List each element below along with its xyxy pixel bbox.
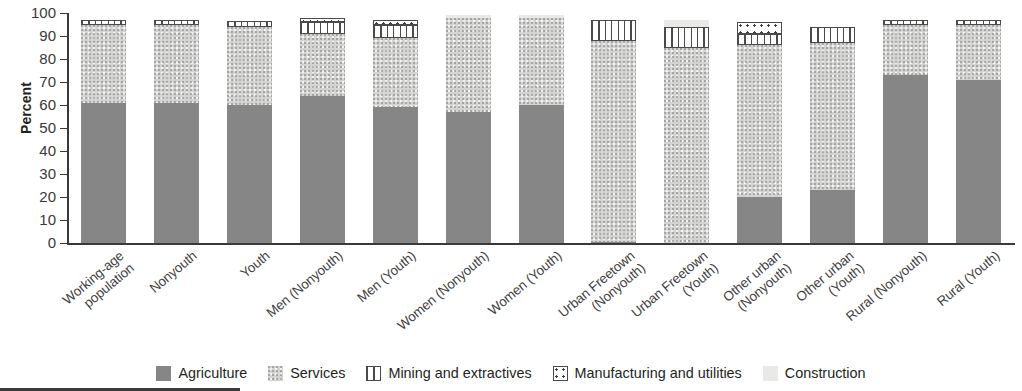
legend-item: Services [268,365,345,381]
bar-segment-mining [956,20,1001,25]
bar-segment-mining [737,34,782,46]
bar-group [300,13,345,243]
y-axis-tick-label: 30 [22,167,56,181]
bar-segment-agriculture [81,103,126,243]
bar-segment-services [883,25,928,76]
y-axis-tick-mark [60,82,67,83]
stacked-bar-chart: Percent 0102030405060708090100 Working-a… [0,0,1022,391]
x-axis-tick-labels: Working-age populationNonyouthYouthMen (… [0,248,1022,358]
y-axis-tick-mark [60,174,67,175]
y-axis-tick-mark [60,128,67,129]
y-axis-tick-mark [60,243,67,244]
legend-item: Mining and extractives [366,365,531,381]
bar-group [883,13,928,243]
y-axis-tick-label: 10 [22,213,56,227]
bar-segment-services [664,48,709,244]
bar-segment-mining [81,20,126,25]
bar-segment-services [300,34,345,96]
bar-segment-services [154,25,199,103]
bar-segment-services [373,38,418,107]
y-axis-tick-mark [60,105,67,106]
bar-group [81,13,126,243]
y-axis-tick-label: 70 [22,75,56,89]
bar-group [373,13,418,243]
bar-group [591,13,636,243]
bar-segment-manufacturing [300,18,345,23]
y-axis-tick-mark [60,197,67,198]
bar-group [446,13,491,243]
y-axis-tick-mark [60,13,67,14]
bar-group [154,13,199,243]
bar-segment-manufacturing [737,22,782,34]
legend-label: Manufacturing and utilities [575,365,742,381]
bar-segment-mining [373,25,418,39]
legend-swatch-mining [366,366,381,381]
y-axis-tick-label: 90 [22,29,56,43]
bar-segment-services [519,18,564,105]
bar-segment-mining [810,27,855,43]
bar-group [737,13,782,243]
bar-segment-services [956,25,1001,80]
bar-segment-manufacturing [373,20,418,25]
legend-label: Mining and extractives [388,365,531,381]
y-axis-tick-mark [60,151,67,152]
chart-legend: AgricultureServicesMining and extractive… [0,361,1022,385]
bar-segment-agriculture [373,107,418,243]
bar-segment-mining [227,21,272,27]
y-axis-tick-mark [60,36,67,37]
bar-segment-agriculture [737,197,782,243]
bar-segment-services [227,27,272,105]
bar-segment-agriculture [300,96,345,243]
y-axis-tick-label: 20 [22,190,56,204]
plot-area [67,13,1015,243]
bar-segment-services [737,45,782,197]
legend-swatch-services [268,366,283,381]
bar-segment-agriculture [154,103,199,243]
legend-swatch-manufacturing [553,366,568,381]
bar-segment-mining [883,20,928,25]
bar-group [227,13,272,243]
y-axis-tick-label: 60 [22,98,56,112]
bar-segment-construction [664,20,709,27]
legend-label: Agriculture [178,365,247,381]
bar-segment-mining [154,20,199,25]
bar-group [519,13,564,243]
bar-segment-agriculture [227,105,272,243]
legend-swatch-agriculture [156,366,171,381]
y-axis-tick-labels: 0102030405060708090100 [22,0,56,260]
y-axis-tick-mark [60,220,67,221]
bar-segment-agriculture [446,112,491,243]
y-axis-tick-label: 80 [22,52,56,66]
bar-segment-agriculture [810,190,855,243]
x-axis-line [67,243,1015,245]
bar-segment-mining [300,22,345,34]
legend-item: Manufacturing and utilities [553,365,742,381]
bar-segment-mining [664,27,709,48]
legend-label: Construction [785,365,866,381]
bar-group [810,13,855,243]
bar-segment-services [591,41,636,242]
bar-group [664,13,709,243]
bar-segment-construction [519,15,564,17]
bar-segment-agriculture [956,80,1001,243]
bar-segment-agriculture [883,75,928,243]
legend-item: Construction [763,365,866,381]
bar-segment-services [446,18,491,112]
legend-label: Services [290,365,345,381]
bar-segment-services [810,43,855,190]
bar-group [956,13,1001,243]
legend-swatch-construction [763,366,778,381]
y-axis-tick-label: 40 [22,144,56,158]
legend-item: Agriculture [156,365,247,381]
y-axis-tick-mark [60,59,67,60]
y-axis-tick-label: 100 [22,6,56,20]
bar-segment-services [81,25,126,103]
bar-segment-agriculture [519,105,564,243]
bar-segment-construction [446,15,491,17]
y-axis-tick-label: 50 [22,121,56,135]
bar-segment-mining [591,20,636,41]
